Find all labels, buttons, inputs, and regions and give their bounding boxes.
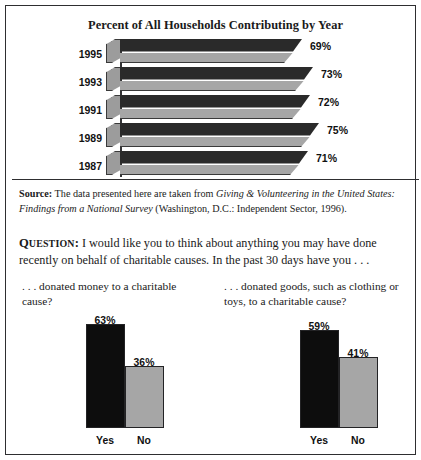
question-block: QUESTION: I would like you to think abou…	[19, 235, 413, 268]
column-bar-no	[125, 366, 164, 428]
question-label-rest: UESTION	[29, 238, 75, 249]
bar-value-1989: 75%	[327, 124, 348, 136]
figure-page: Percent of All Households Contributing b…	[0, 0, 421, 460]
year-label-1987: 1987	[42, 160, 102, 172]
year-label-1993: 1993	[42, 76, 102, 88]
source-label: Source:	[19, 188, 52, 199]
column-category-no: No	[335, 435, 381, 446]
bar-1995	[106, 39, 302, 63]
source-text-after: (Washington, D.C.: Independent Sector, 1…	[153, 203, 347, 214]
bar-left-cap	[106, 39, 121, 63]
column-chart-goods: 59% 41% Yes No	[278, 318, 408, 446]
bar-top-face	[120, 95, 310, 108]
bar-row: 1993 73%	[12, 66, 419, 93]
source-text-before: The data presented here are taken from	[52, 188, 216, 199]
bar-front-face	[120, 165, 308, 175]
chart-title: Percent of All Households Contributing b…	[12, 18, 419, 33]
year-label-1989: 1989	[42, 132, 102, 144]
bar-1989	[106, 123, 319, 147]
source-note: Source: The data presented here are take…	[19, 186, 415, 216]
bar-1991	[106, 95, 310, 119]
bar-body	[120, 39, 302, 63]
page-border: Percent of All Households Contributing b…	[5, 5, 416, 455]
bar-body	[120, 151, 308, 175]
bar-1987	[106, 151, 308, 175]
bar-body	[120, 95, 310, 119]
bar-body	[120, 123, 319, 147]
bar-body	[120, 67, 313, 91]
bar-left-cap	[106, 151, 121, 175]
bar-front-face	[120, 81, 313, 91]
column-bar-yes	[86, 324, 125, 428]
bar-value-1993: 73%	[321, 68, 342, 80]
bar-top-face	[120, 151, 308, 164]
bar-1993	[106, 67, 313, 91]
bar-row: 1995 69%	[12, 38, 419, 65]
bar-left-cap	[106, 67, 121, 91]
bar-row: 1991 72%	[12, 94, 419, 121]
households-chart-panel: Percent of All Households Contributing b…	[12, 12, 419, 180]
bar-value-1991: 72%	[318, 96, 339, 108]
year-label-1991: 1991	[42, 104, 102, 116]
bar-left-cap	[106, 95, 121, 119]
bar-row: 1989 75%	[12, 122, 419, 149]
bar-value-1987: 71%	[316, 152, 337, 164]
year-label-1995: 1995	[42, 48, 102, 60]
bar-top-face	[120, 39, 302, 52]
bar-front-face	[120, 109, 310, 119]
bar-top-face	[120, 67, 313, 80]
question-label-initial: Q	[19, 236, 29, 250]
bar-row: 1987 71%	[12, 150, 419, 177]
bar-left-cap	[106, 123, 121, 147]
column-bar-yes	[300, 330, 339, 428]
column-category-no: No	[121, 435, 167, 446]
bar-front-face	[120, 53, 302, 63]
bar-front-face	[120, 137, 319, 147]
column-bar-no	[339, 357, 378, 428]
column-chart-money: 63% 36% Yes No	[64, 318, 194, 446]
chart-plot-area: 1995 69% 1993	[12, 38, 419, 178]
question-label: QUESTION:	[19, 236, 79, 250]
bar-top-face	[120, 123, 319, 136]
subquestion-prompt-goods: . . . donated goods, such as clothing or…	[224, 279, 414, 310]
subquestion-prompt-money: . . . donated money to a charitable caus…	[22, 279, 207, 310]
bar-value-1995: 69%	[310, 40, 331, 52]
